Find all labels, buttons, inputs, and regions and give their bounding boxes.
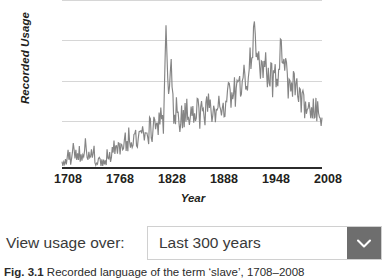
- x-axis-ticklabels: 170817681828188819482008: [48, 172, 348, 186]
- x-tick-label: 1888: [204, 172, 244, 186]
- figure-caption: Fig. 3.1 Recorded language of the term ‘…: [4, 266, 382, 278]
- x-tick-label: 1828: [152, 172, 192, 186]
- chevron-down-icon: [356, 238, 372, 249]
- x-tick-label: 2008: [308, 172, 348, 186]
- x-tick-label: 1708: [48, 172, 88, 186]
- plot-area: [62, 0, 322, 168]
- usage-range-selected-value[interactable]: Last 300 years: [148, 227, 347, 259]
- figure-number: Fig. 3.1: [4, 266, 44, 278]
- figure-caption-text: Recorded language of the term ‘slave’, 1…: [44, 266, 305, 278]
- view-usage-control-row: View usage over: Last 300 years: [0, 222, 386, 264]
- figure-container: Recorded Usage 170817681828188819482008 …: [0, 0, 386, 279]
- x-axis-line: [62, 167, 322, 169]
- usage-range-dropdown-button[interactable]: [347, 227, 381, 259]
- x-tick-label: 1948: [256, 172, 296, 186]
- usage-chart: Recorded Usage 170817681828188819482008 …: [0, 0, 386, 215]
- view-usage-label: View usage over:: [6, 234, 125, 252]
- x-tick-label: 1768: [100, 172, 140, 186]
- x-axis-title: Year: [0, 192, 386, 204]
- usage-range-select[interactable]: Last 300 years: [147, 226, 382, 260]
- y-axis-title: Recorded Usage: [19, 3, 31, 113]
- usage-line-series: [62, 0, 322, 168]
